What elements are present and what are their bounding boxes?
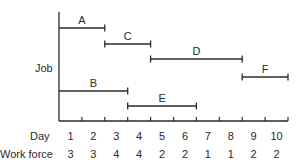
day-label: 3 [113,130,119,142]
day-label: 4 [136,130,142,142]
day-label: 1 [67,130,73,142]
job-label: D [192,45,200,57]
job-label: F [262,63,269,75]
work-force-label: Work force [0,148,53,160]
work-force-value: 2 [182,148,188,160]
day-label: 8 [228,130,234,142]
day-label: 10 [270,130,282,142]
work-force-value: 4 [136,148,142,160]
work-force-value: 2 [159,148,165,160]
job-label: E [158,92,165,104]
work-force-value: 4 [113,148,119,160]
job-label: C [124,30,132,42]
day-label: 9 [251,130,257,142]
y-axis-label: Job [35,62,53,74]
work-force-value: 1 [205,148,211,160]
job-label: B [90,77,97,89]
work-force-value: 3 [67,148,73,160]
day-label: 6 [182,130,188,142]
job-label: A [78,14,86,26]
work-force-value: 3 [90,148,96,160]
work-force-value: 1 [228,148,234,160]
work-force-value: 2 [251,148,257,160]
day-label: 2 [90,130,96,142]
work-force-value: 2 [273,148,279,160]
day-label: 7 [205,130,211,142]
x-axis-label: Day [30,130,50,142]
day-label: 5 [159,130,165,142]
